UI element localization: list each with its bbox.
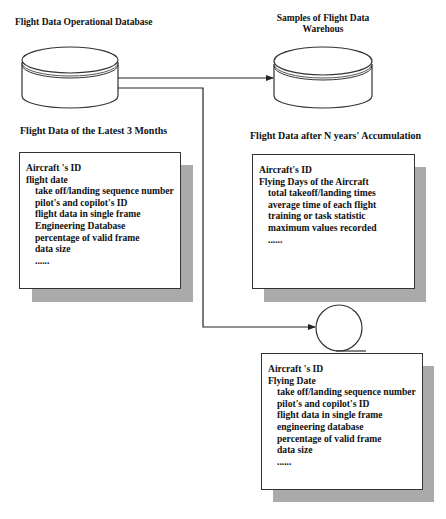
list-item: percentage of valid frame: [268, 433, 416, 445]
list-item: data size: [26, 243, 174, 255]
list-item: Flying Date: [268, 375, 416, 387]
sample-record-list: Aircraft 's ID Flying Date take off/land…: [268, 363, 416, 467]
warehouse-title: Samples of Flight Data Warehous: [268, 13, 378, 35]
latest-3-months-heading: Flight Data of the Latest 3 Months: [20, 125, 167, 136]
list-item: Aircraft 's ID: [268, 363, 416, 375]
operational-db-title: Flight Data Operational Database: [15, 17, 152, 28]
list-item: take off/landing sequence number: [268, 386, 416, 398]
n-years-list: Aircraft's ID Flying Days of the Aircraf…: [259, 164, 377, 245]
list-item: pilot's and copilot's ID: [268, 398, 416, 410]
list-item: take off/landing sequence number: [26, 185, 174, 197]
list-item: flight data in single frame: [268, 409, 416, 421]
n-years-panel: Aircraft's ID Flying Days of the Aircraf…: [252, 154, 415, 289]
list-item: Aircraft's ID: [259, 164, 377, 176]
circle-node-icon: [316, 305, 362, 351]
list-item: maximum values recorded: [259, 222, 377, 234]
list-item: Engineering Database: [26, 220, 174, 232]
warehouse-title-line2: Warehous: [268, 24, 378, 35]
n-years-heading: Flight Data after N years' Accumulation: [250, 130, 421, 141]
list-item: engineering database: [268, 421, 416, 433]
list-item: data size: [268, 444, 416, 456]
list-item: Flying Days of the Aircraft: [259, 176, 377, 188]
operational-db-cylinder-icon: [22, 47, 118, 108]
list-item: ......: [268, 456, 416, 468]
list-item: training or task statistic: [259, 210, 377, 222]
list-item: flight date: [26, 174, 174, 186]
list-item: ......: [26, 255, 174, 267]
warehouse-cylinder-icon: [274, 47, 372, 108]
sample-record-panel: Aircraft 's ID Flying Date take off/land…: [261, 353, 423, 490]
latest-3-months-list: Aircraft 's ID flight date take off/land…: [26, 162, 174, 266]
list-item: average time of each flight: [259, 199, 377, 211]
warehouse-title-line1: Samples of Flight Data: [268, 13, 378, 24]
latest-3-months-panel: Aircraft 's ID flight date take off/land…: [19, 152, 181, 289]
list-item: flight data in single frame: [26, 208, 174, 220]
list-item: total takeoff/landing times: [259, 187, 377, 199]
list-item: percentage of valid frame: [26, 232, 174, 244]
list-item: pilot's and copilot's ID: [26, 197, 174, 209]
list-item: Aircraft 's ID: [26, 162, 174, 174]
list-item: ......: [259, 234, 377, 246]
